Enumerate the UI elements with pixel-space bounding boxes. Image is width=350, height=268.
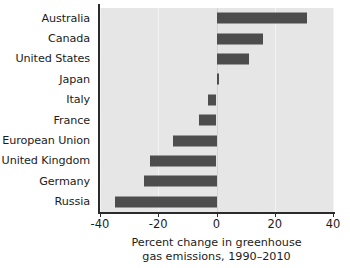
category-label-italy: Italy bbox=[0, 90, 96, 110]
bar-row bbox=[100, 90, 333, 110]
bar-row bbox=[100, 49, 333, 69]
x-tick-label-0: 0 bbox=[213, 219, 220, 231]
category-label-australia: Australia bbox=[0, 8, 96, 28]
category-label-european-union: European Union bbox=[0, 130, 96, 150]
x-tick-label--20: -20 bbox=[149, 219, 168, 231]
category-label-russia: Russia bbox=[0, 192, 96, 212]
bar-row bbox=[100, 171, 333, 191]
x-axis-title-line-1: Percent change in greenhouse bbox=[100, 236, 333, 250]
category-label-france: France bbox=[0, 110, 96, 130]
category-label-japan: Japan bbox=[0, 69, 96, 89]
bar-european-union bbox=[173, 135, 217, 146]
category-label-united-states: United States bbox=[0, 49, 96, 69]
x-tick-label-20: 20 bbox=[267, 219, 282, 231]
bar-japan bbox=[217, 74, 220, 85]
gridline-40 bbox=[333, 8, 334, 212]
bar-row bbox=[100, 28, 333, 48]
bar-france bbox=[199, 115, 216, 126]
greenhouse-gas-emissions-bar-chart: Australia Canada United States Japan Ita… bbox=[0, 0, 350, 268]
bar-row bbox=[100, 69, 333, 89]
x-axis-title: Percent change in greenhouse gas emissio… bbox=[100, 236, 333, 263]
y-axis-category-labels: Australia Canada United States Japan Ita… bbox=[0, 8, 96, 212]
category-label-united-kingdom: United Kingdom bbox=[0, 151, 96, 171]
bar-italy bbox=[208, 94, 217, 105]
bar-series bbox=[100, 8, 333, 212]
x-axis-title-line-2: gas emissions, 1990–2010 bbox=[100, 250, 333, 264]
bar-united-states bbox=[217, 54, 249, 65]
bar-canada bbox=[217, 33, 264, 44]
x-tick-label--40: -40 bbox=[91, 219, 110, 231]
category-label-canada: Canada bbox=[0, 28, 96, 48]
x-tick-label-40: 40 bbox=[326, 219, 341, 231]
bar-row bbox=[100, 130, 333, 150]
bar-russia bbox=[115, 196, 217, 207]
bar-row bbox=[100, 192, 333, 212]
bar-germany bbox=[144, 176, 217, 187]
bar-row bbox=[100, 8, 333, 28]
category-label-germany: Germany bbox=[0, 171, 96, 191]
bar-row bbox=[100, 151, 333, 171]
bar-australia bbox=[217, 13, 307, 24]
bar-united-kingdom bbox=[150, 156, 217, 167]
plot-area bbox=[100, 8, 333, 212]
bar-row bbox=[100, 110, 333, 130]
